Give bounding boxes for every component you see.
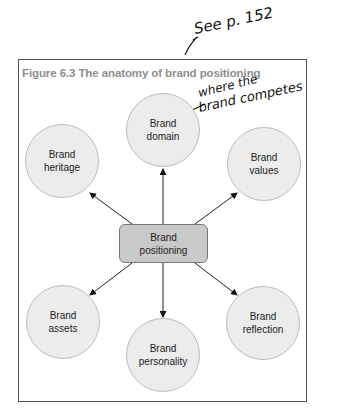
center-line-2: positioning xyxy=(140,244,188,257)
node-brand-values: Brandvalues xyxy=(227,127,301,201)
arrow-to-heritage xyxy=(90,193,132,224)
arrow-to-values xyxy=(195,193,237,224)
node-brand-domain: Branddomain xyxy=(126,93,200,167)
handwritten-tick xyxy=(185,37,198,55)
arrow-to-reflection xyxy=(195,263,237,295)
node-brand-reflection: Brandreflection xyxy=(226,286,300,360)
node-brand-heritage: Brandheritage xyxy=(25,124,99,198)
center-line-1: Brand xyxy=(150,231,177,244)
node-brand-positioning: Brand positioning xyxy=(119,224,208,263)
arrow-to-assets xyxy=(90,263,132,295)
node-brand-personality: Brandpersonality xyxy=(126,318,200,392)
node-brand-assets: Brandassets xyxy=(26,285,100,359)
